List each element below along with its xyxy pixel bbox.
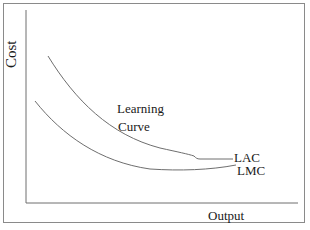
learning-curve-annotation-line1: Learning — [117, 102, 164, 115]
y-axis-label: Cost — [4, 40, 19, 68]
x-axis-label: Output — [208, 209, 244, 222]
lmc-label: LMC — [237, 164, 265, 177]
learning-curve-annotation-line2: Curve — [118, 120, 150, 133]
